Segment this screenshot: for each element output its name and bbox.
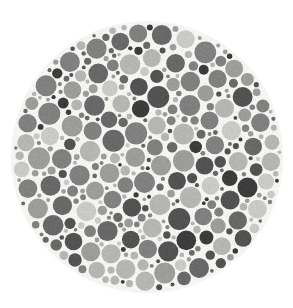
ishihara-plate-container: Circular Ishihara color vision test plat…: [0, 0, 293, 308]
ishihara-plate-canvas: [0, 0, 293, 308]
